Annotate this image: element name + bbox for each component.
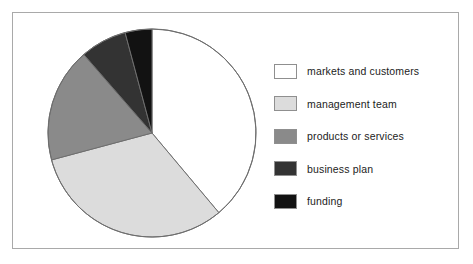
legend-item: management team (274, 88, 449, 121)
legend-label: products or services (307, 131, 404, 142)
legend-label: management team (307, 99, 397, 110)
legend-item: markets and customers (274, 55, 449, 88)
pie-slice-group (48, 29, 256, 237)
legend-label: markets and customers (307, 66, 419, 77)
legend-swatch (274, 194, 297, 209)
chart-legend: markets and customersmanagement teamprod… (274, 55, 449, 218)
pie-chart (46, 27, 258, 239)
legend-item: products or services (274, 120, 449, 153)
legend-item: business plan (274, 153, 449, 186)
pie-chart-figure: markets and customersmanagement teamprod… (0, 0, 473, 264)
legend-label: business plan (307, 164, 373, 175)
legend-item: funding (274, 185, 449, 218)
legend-swatch (274, 64, 297, 79)
pie-chart-svg (46, 27, 258, 239)
legend-swatch (274, 96, 297, 111)
legend-label: funding (307, 196, 343, 207)
legend-swatch (274, 161, 297, 176)
legend-swatch (274, 129, 297, 144)
